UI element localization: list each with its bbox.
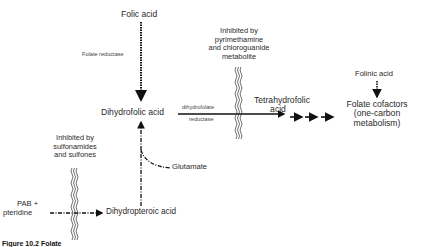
dhps-inhibition-label: Inhibited by sulfonamides and sulfones (40, 134, 110, 160)
tetrahydrofolic-acid-label: Tetrahydrofolic acid (252, 96, 312, 115)
dhfr-enzyme-label-line2: reductase (189, 117, 214, 123)
glutamate-label: Glutamate (172, 163, 207, 171)
folate-reductase-label: Folate reductase (82, 52, 124, 58)
folate-cofactors-line3: metabolism) (340, 119, 414, 128)
folic-acid-label: Folic acid (121, 10, 157, 19)
tetrahydrofolic-line2: acid (244, 105, 312, 114)
dhfr-inhibition-wavy-bar (235, 67, 242, 139)
folinic-acid-label: Folinic acid (355, 70, 393, 78)
dhfr-enzyme-label-line1: dihydrofolate (182, 105, 214, 111)
dhfr-inhibition-label: Inhibited by pyrimethamine and chlorogua… (208, 27, 270, 61)
glutamate-joining-curve (141, 150, 170, 168)
folate-cofactors-label: Folate cofactors (one-carbon metabolism) (340, 100, 414, 128)
dihydrofolic-acid-label: Dihydrofolic acid (101, 108, 164, 117)
pab-line2: pteridine (3, 209, 47, 218)
dhps-inhibition-wavy-bar (71, 168, 78, 240)
dhfr-inhibition-line4: metabolite (208, 53, 270, 62)
dhps-inhibition-line3: and sulfones (40, 151, 110, 160)
pab-pteridine-label: PAB + pteridine (3, 200, 47, 217)
dihydropteroic-acid-label: Dihydropteroic acid (106, 208, 176, 217)
figure-caption: Figure 10.2 Folate (2, 240, 62, 247)
